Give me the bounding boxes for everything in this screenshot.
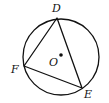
label-d: D — [51, 2, 61, 15]
label-e: E — [83, 88, 92, 101]
circle-triangle-diagram: D E F O — [0, 0, 109, 103]
label-f: F — [10, 63, 19, 76]
center-point — [59, 53, 63, 57]
triangle-def — [24, 18, 82, 88]
label-o: O — [49, 56, 58, 69]
